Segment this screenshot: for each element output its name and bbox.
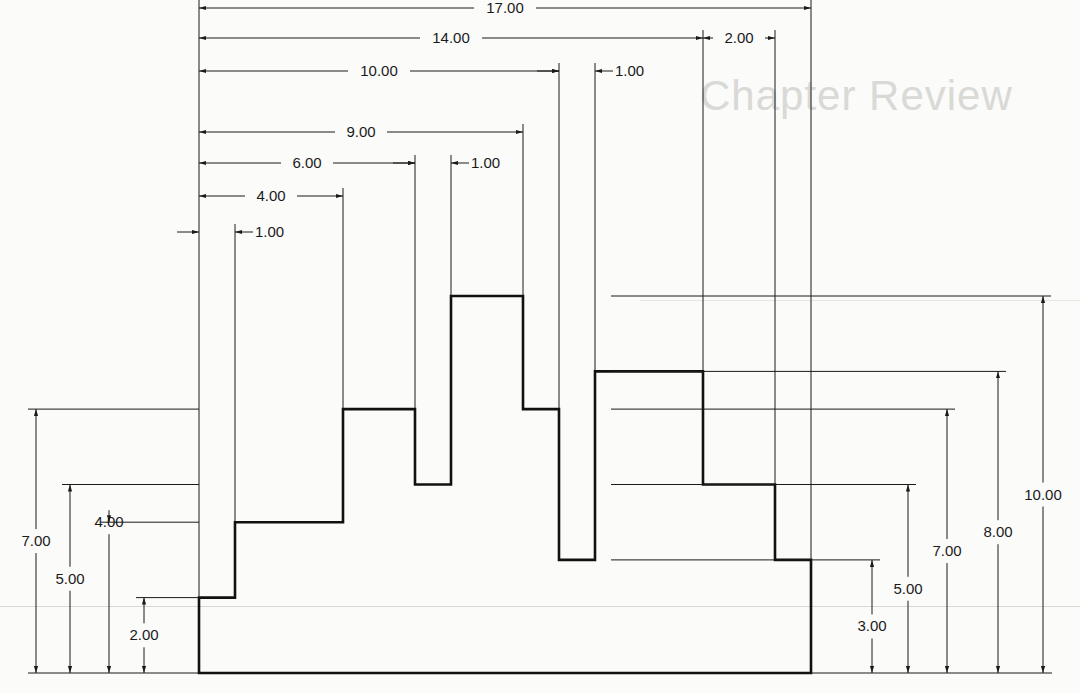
dimension-v-4.00-left: 4.00	[94, 510, 199, 673]
dimension-v-3.00-right: 3.00	[611, 560, 887, 673]
dimension-h-4.00: 4.00	[199, 187, 343, 204]
dimension-h-9.00: 9.00	[199, 123, 523, 140]
extension-lines	[28, 0, 1052, 673]
dimension-label: 1.00	[255, 223, 284, 240]
dimension-label: 7.00	[932, 542, 961, 559]
dimension-label: 6.00	[292, 154, 321, 171]
dimension-h-10.00: 10.00	[199, 62, 559, 79]
dimension-label: 5.00	[893, 580, 922, 597]
dimension-label: 7.00	[21, 532, 50, 549]
dimension-label: 5.00	[55, 570, 84, 587]
dimension-v-2.00-left: 2.00	[129, 598, 199, 673]
dimension-h-1.00: 1.00	[177, 223, 284, 240]
horizontal-dimensions: 17.0014.002.0010.001.009.006.001.004.001…	[177, 0, 811, 240]
vertical-dimensions: 7.005.004.002.003.005.007.008.0010.00	[21, 296, 1061, 673]
dimension-v-5.00-right: 5.00	[611, 485, 923, 674]
dimension-h-14.00: 14.00	[199, 29, 703, 46]
dimension-label: 3.00	[857, 617, 886, 634]
dimension-h-2.00: 2.00	[703, 29, 775, 46]
dimension-label: 8.00	[983, 523, 1012, 540]
dimension-label: 9.00	[346, 123, 375, 140]
dimension-label: 2.00	[129, 626, 158, 643]
dimension-h-1.00: 1.00	[393, 154, 500, 171]
dimension-v-7.00-right: 7.00	[611, 409, 962, 673]
dimension-label: 17.00	[486, 0, 524, 16]
dimension-label: 1.00	[471, 154, 500, 171]
dimension-label: 10.00	[360, 62, 398, 79]
dimension-label: 2.00	[724, 29, 753, 46]
dimension-label: 1.00	[615, 62, 644, 79]
dimension-label: 4.00	[94, 513, 123, 530]
dimension-v-7.00-left: 7.00	[21, 409, 199, 673]
dimension-label: 4.00	[256, 187, 285, 204]
dimension-label: 14.00	[432, 29, 470, 46]
dimension-v-5.00-left: 5.00	[55, 485, 199, 674]
dimension-label: 10.00	[1024, 486, 1062, 503]
dimension-h-6.00: 6.00	[199, 154, 415, 171]
dimensioned-stepped-profile-drawing: 17.0014.002.0010.001.009.006.001.004.001…	[0, 0, 1080, 693]
dimension-h-17.00: 17.00	[199, 0, 811, 16]
dimension-h-1.00: 1.00	[537, 62, 644, 79]
